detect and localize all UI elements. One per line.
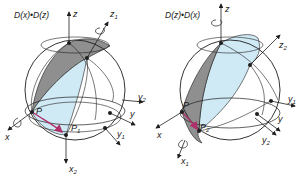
left-x-label: x: [4, 132, 10, 142]
left-z-label: z: [72, 9, 78, 19]
left-y1-label: y1: [116, 129, 125, 140]
right-x-label: x: [156, 130, 162, 140]
right-point-P2: P2: [200, 122, 210, 133]
diagram-canvas: D(x)•D(z) z z1 y2 y y1 x x2 P P1: [0, 0, 299, 175]
left-y-label: y: [129, 109, 135, 119]
right-y2-label: y2: [261, 135, 271, 146]
right-y1-label: y1: [287, 94, 296, 105]
rotation-diagram: D(x)•D(z) z z1 y2 y y1 x x2 P P1: [0, 0, 299, 175]
left-y2-label: y2: [137, 92, 147, 103]
left-sphere: [8, 12, 143, 163]
right-z2-label: z2: [278, 40, 288, 51]
right-x1-label: x1: [180, 156, 189, 167]
blue-rotation-band: [199, 35, 260, 131]
left-z1-label: z1: [109, 9, 118, 20]
right-point-P: P: [183, 100, 189, 110]
left-x2-label: x2: [68, 164, 78, 175]
left-point-P: P: [36, 106, 42, 116]
left-title: D(x)•D(z): [14, 10, 49, 20]
right-z-label: z: [224, 4, 230, 14]
right-sphere: [156, 4, 295, 158]
right-y-label: y: [277, 114, 283, 124]
right-title: D(z)•D(x): [165, 10, 200, 20]
